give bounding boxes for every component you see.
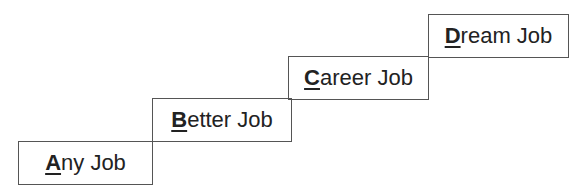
step-initial: D (445, 25, 461, 47)
step-initial: A (45, 152, 61, 174)
step-dream-job: Dream Job (428, 14, 569, 58)
step-initial: B (171, 109, 187, 131)
step-label-rest: etter Job (187, 109, 273, 131)
step-initial: C (304, 67, 320, 89)
step-label-rest: ream Job (461, 25, 553, 47)
step-better-job: Better Job (152, 98, 292, 142)
step-career-job: Career Job (288, 56, 429, 100)
step-label-rest: areer Job (320, 67, 413, 89)
step-label-rest: ny Job (61, 152, 126, 174)
step-any-job: Any Job (18, 141, 153, 185)
